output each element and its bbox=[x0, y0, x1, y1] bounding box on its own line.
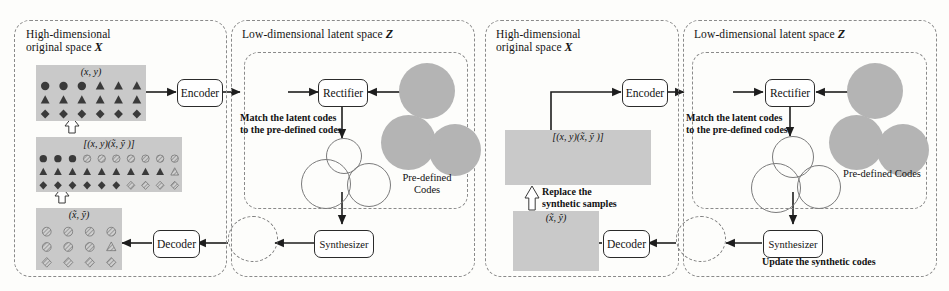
figure-canvas: High-dimensional original space X Low-di… bbox=[0, 0, 949, 291]
scatter-shapes-layer bbox=[0, 0, 949, 291]
